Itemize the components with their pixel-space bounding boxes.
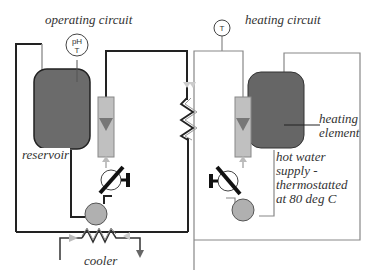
heat-exchanger-coil-inner <box>185 98 197 140</box>
pump-heating <box>232 199 254 221</box>
pump-operating <box>85 203 107 225</box>
cooler-label: cooler <box>84 254 117 268</box>
reservoir-tank <box>34 69 90 149</box>
t-gauge-label: T <box>220 24 225 33</box>
hot-water-label-line1: hot water <box>276 150 325 164</box>
gauge-t-label: T <box>75 46 80 55</box>
hot-water-label-line2: supply - <box>276 164 318 178</box>
hot-water-label-line4: at 80 deg C <box>276 192 336 206</box>
valve-operating <box>100 167 130 193</box>
hot-water-label-line3: thermostatted <box>276 178 348 192</box>
heating-element-label-line2: element <box>319 126 359 140</box>
reservoir-label: reservoir <box>21 148 70 162</box>
valve-heating <box>209 167 240 194</box>
gauge-ph-label: pH <box>72 37 82 46</box>
heating-tank <box>248 72 304 148</box>
heating-circuit-title: heating circuit <box>245 13 321 27</box>
flowmeter-heating <box>235 97 251 168</box>
heating-element-label-line1: heating <box>319 112 358 126</box>
flowmeter-operating <box>98 97 114 168</box>
process-diagram: pH T T <box>0 0 388 272</box>
operating-circuit-title: operating circuit <box>45 13 132 27</box>
